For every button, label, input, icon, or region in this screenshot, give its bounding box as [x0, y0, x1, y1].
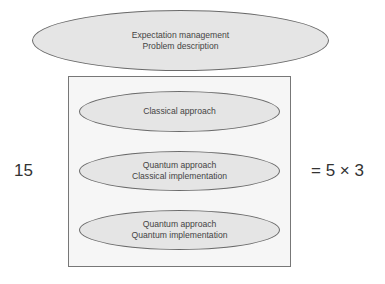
approach-sublabel: Quantum implementation — [131, 230, 227, 241]
top-ellipse-line-2: Problem description — [143, 41, 219, 52]
top-ellipse-line-1: Expectation management — [132, 30, 229, 41]
approach-label: Quantum approach — [143, 160, 217, 171]
top-ellipse: Expectation management Problem descripti… — [32, 10, 329, 71]
approach-label: Classical approach — [143, 106, 216, 117]
approach-ellipse-quantum-classical: Quantum approach Classical implementatio… — [79, 151, 280, 191]
approach-label: Quantum approach — [143, 219, 217, 230]
right-equation-label: = 5 × 3 — [311, 161, 364, 181]
approach-ellipse-classical: Classical approach — [79, 91, 280, 132]
approach-sublabel: Classical implementation — [132, 171, 227, 182]
approach-ellipse-quantum-quantum: Quantum approach Quantum implementation — [79, 210, 280, 250]
left-count-label: 15 — [14, 161, 33, 181]
